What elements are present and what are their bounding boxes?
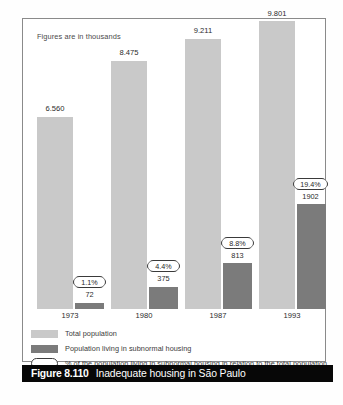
sub-value-1980: 375 (147, 274, 180, 283)
bar-group-1980: 8.475 4.4% 375 (111, 19, 177, 309)
x-label-1980: 1980 (111, 311, 177, 320)
subnormal-housing-swatch (31, 345, 58, 353)
subnormal-bar-1980[interactable] (149, 287, 178, 309)
total-bar-1980[interactable] (111, 61, 147, 309)
figure-page: Figures are in thousands 6.560 1.1% 72 8… (0, 0, 343, 405)
sub-value-1987: 813 (221, 251, 254, 260)
pct-callout-1993: 19.4% (293, 178, 328, 190)
x-label-1987: 1987 (185, 311, 251, 320)
legend-item-subnormal-housing: Population living in subnormal housing (31, 342, 323, 355)
total-label-1987: 9.211 (185, 26, 221, 35)
legend-label-total-population: Total population (65, 329, 117, 338)
pct-callout-1973: 1.1% (73, 276, 106, 288)
total-bar-1973[interactable] (37, 117, 73, 309)
pct-callout-1987: 8.8% (221, 237, 254, 249)
figure-title: Inadequate housing in São Paulo (96, 368, 246, 379)
legend-item-total-population: Total population (31, 327, 323, 340)
bar-group-1993: 9.801 19.4% 1902 (259, 19, 325, 309)
bar-group-1973: 6.560 1.1% 72 (37, 19, 103, 309)
total-label-1980: 8.475 (111, 48, 147, 57)
figure-number: Figure 8.110 (31, 368, 89, 379)
x-axis-labels: 1973 1980 1987 1993 (23, 311, 327, 325)
subnormal-bar-1973[interactable] (75, 303, 104, 309)
figure-caption-bar: Figure 8.110 Inadequate housing in São P… (22, 365, 333, 382)
subnormal-bar-1987[interactable] (223, 263, 252, 309)
total-label-1993: 9.801 (259, 9, 295, 18)
legend-label-subnormal-housing: Population living in subnormal housing (65, 344, 191, 353)
chart-frame: Figures are in thousands 6.560 1.1% 72 8… (22, 18, 326, 362)
x-label-1993: 1993 (259, 311, 325, 320)
subnormal-bar-1993[interactable] (297, 204, 326, 309)
total-bar-1987[interactable] (185, 39, 221, 309)
plot-area: 6.560 1.1% 72 8.475 4.4% 375 9.211 8.8% … (23, 19, 327, 309)
sub-value-1973: 72 (73, 290, 106, 299)
x-label-1973: 1973 (37, 311, 103, 320)
bar-group-1987: 9.211 8.8% 813 (185, 19, 251, 309)
total-label-1973: 6.560 (37, 104, 73, 113)
pct-callout-1980: 4.4% (147, 260, 180, 272)
total-bar-1993[interactable] (259, 21, 295, 309)
sub-value-1993: 1902 (293, 192, 328, 201)
total-population-swatch (31, 330, 58, 338)
